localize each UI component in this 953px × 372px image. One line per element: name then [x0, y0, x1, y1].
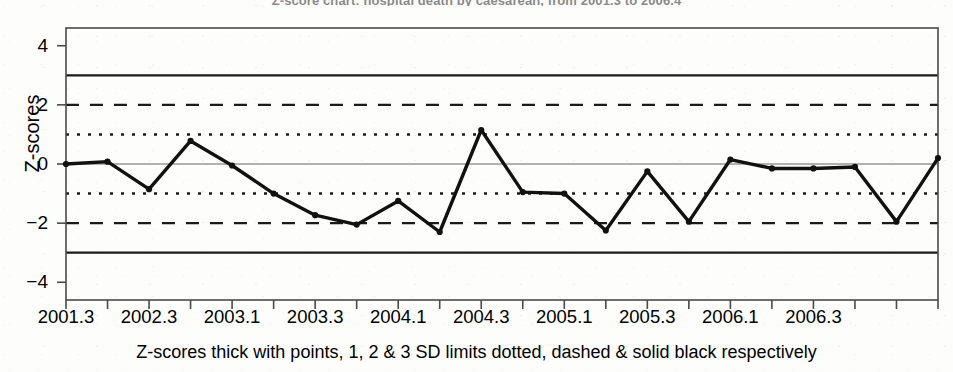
tick-marks-group	[57, 46, 938, 309]
x-tick-label: 2003.1	[204, 306, 261, 328]
x-tick-label: 2004.1	[370, 306, 427, 328]
data-point	[437, 229, 443, 235]
data-point	[686, 219, 692, 225]
x-tick-label: 2005.3	[619, 306, 676, 328]
data-point	[727, 156, 733, 162]
data-point	[935, 155, 941, 161]
x-tick-label: 2001.3	[38, 306, 95, 328]
data-point	[312, 212, 318, 218]
x-tick-label: 2006.3	[785, 306, 842, 328]
data-point	[852, 164, 858, 170]
y-axis-title: Z-scores	[21, 74, 44, 194]
data-series-line	[66, 130, 938, 232]
x-tick-label: 2003.3	[287, 306, 344, 328]
data-point	[395, 198, 401, 204]
data-point	[104, 159, 110, 165]
data-point	[229, 162, 235, 168]
data-point	[63, 161, 69, 167]
x-tick-label: 2005.1	[536, 306, 593, 328]
zscore-chart-figure: Z-score chart: hospital death by caesare…	[0, 0, 953, 372]
data-point	[271, 190, 277, 196]
data-series-line-group	[66, 130, 938, 232]
x-tick-label: 2006.1	[702, 306, 759, 328]
data-point	[478, 127, 484, 133]
data-point	[354, 222, 360, 228]
x-axis-title: Z-scores thick with points, 1, 2 & 3 SD …	[0, 342, 953, 363]
data-point	[644, 168, 650, 174]
data-point	[187, 138, 193, 144]
data-point	[146, 186, 152, 192]
data-point	[893, 219, 899, 225]
data-point	[810, 165, 816, 171]
data-point	[520, 189, 526, 195]
data-point	[561, 190, 567, 196]
y-tick-label: −4	[14, 271, 48, 293]
y-tick-label: 4	[14, 35, 48, 57]
data-point	[769, 165, 775, 171]
x-tick-label: 2004.3	[453, 306, 510, 328]
y-tick-label: −2	[14, 212, 48, 234]
data-point	[603, 227, 609, 233]
x-tick-label: 2002.3	[121, 306, 178, 328]
